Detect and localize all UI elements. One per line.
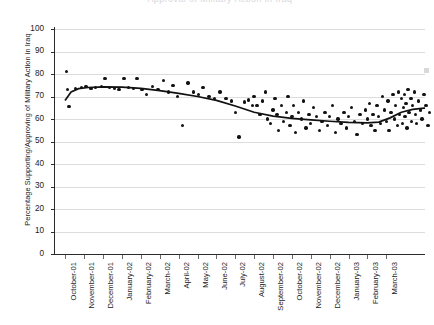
edge-artifact [424, 68, 429, 73]
x-tick-mark [254, 255, 255, 259]
x-tick-label: October-01 [69, 262, 78, 301]
x-tick-label: October-02 [295, 262, 304, 301]
y-tick-label: 60 [22, 115, 44, 123]
x-tick-mark [349, 255, 350, 259]
y-tick-label: 80 [22, 70, 44, 78]
y-tick-label: 70 [22, 92, 44, 100]
data-point [428, 111, 431, 114]
x-tick-label: January-03 [352, 262, 361, 301]
data-point [426, 124, 429, 127]
y-tick-label: 10 [22, 227, 44, 235]
y-tick-label: 30 [22, 182, 44, 190]
x-tick-label: November-02 [314, 262, 323, 309]
x-tick-mark [103, 255, 104, 259]
x-tick-mark [84, 255, 85, 259]
x-tick-mark [367, 255, 368, 259]
x-axis-line [54, 254, 425, 255]
x-tick-label: March-02 [163, 262, 172, 294]
y-tick-label: 50 [22, 137, 44, 145]
x-tick-mark [160, 255, 161, 259]
x-tick-label: April-02 [182, 262, 191, 289]
x-tick-mark [65, 255, 66, 259]
x-tick-mark [216, 255, 217, 259]
y-tick-label: 100 [22, 25, 44, 33]
x-tick-mark [122, 255, 123, 259]
x-tick-label: September-02 [276, 262, 285, 311]
x-tick-label: February-03 [371, 262, 380, 304]
trend-line [55, 29, 425, 254]
y-tick-label: 0 [22, 250, 44, 258]
chart-title: Approval of Military Action in Iraq [60, 0, 380, 6]
x-tick-label: February-02 [144, 262, 153, 304]
chart-container: Approval of Military Action in Iraq Perc… [0, 0, 434, 325]
x-tick-mark [330, 255, 331, 259]
y-tick-label: 90 [22, 47, 44, 55]
x-tick-label: January-02 [125, 262, 134, 301]
x-tick-mark [386, 255, 387, 259]
x-tick-label: December-02 [333, 262, 342, 309]
y-tick-label: 40 [22, 160, 44, 168]
x-tick-label: July-02 [238, 262, 247, 287]
y-tick-label: 20 [22, 205, 44, 213]
x-tick-mark [235, 255, 236, 259]
x-tick-label: November-01 [87, 262, 96, 309]
x-tick-mark [273, 255, 274, 259]
y-axis-line [54, 27, 55, 255]
x-tick-mark [311, 255, 312, 259]
y-axis-title: Percentage Supporting/Approving of Milit… [23, 10, 32, 250]
x-tick-mark [179, 255, 180, 259]
x-tick-label: May-02 [201, 262, 210, 288]
x-tick-label: December-01 [106, 262, 115, 309]
x-tick-mark [198, 255, 199, 259]
x-tick-label: March-03 [390, 262, 399, 294]
x-tick-mark [292, 255, 293, 259]
x-tick-mark [141, 255, 142, 259]
x-tick-label: June-02 [220, 262, 229, 290]
x-tick-label: August-02 [257, 262, 266, 297]
